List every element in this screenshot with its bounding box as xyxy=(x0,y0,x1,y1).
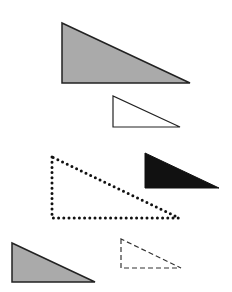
black-small-triangle xyxy=(145,153,219,188)
gray-large-triangle xyxy=(62,23,190,83)
dashed-small-triangle xyxy=(121,239,181,268)
gray-small-triangle xyxy=(12,243,95,282)
white-small-triangle xyxy=(113,96,180,127)
triangles-diagram xyxy=(0,0,232,292)
